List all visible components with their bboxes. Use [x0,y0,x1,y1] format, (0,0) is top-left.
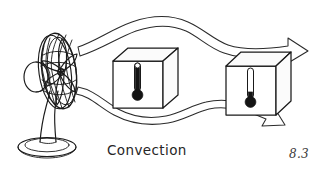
fan [18,31,81,158]
fan-base [18,138,76,159]
convection-figure: Convection 8.3 [0,0,323,171]
box-far [226,52,291,115]
box-near [113,48,178,108]
figure-canvas: Convection 8.3 [0,0,323,171]
figure-number: 8.3 [289,147,309,161]
caption-label: Convection [107,142,187,158]
